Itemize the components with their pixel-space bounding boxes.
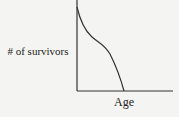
survivorship-curve: [77, 7, 124, 91]
x-axis-label: Age: [114, 95, 134, 109]
survivorship-diagram: # of survivors Age: [0, 0, 179, 117]
y-axis-label: # of survivors: [7, 45, 68, 57]
